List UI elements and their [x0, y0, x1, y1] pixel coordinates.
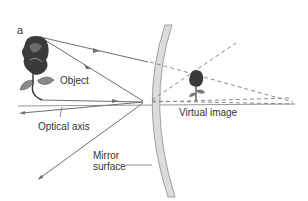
- optical-axis-label: Optical axis: [38, 121, 90, 132]
- virtual-extension-3: [152, 98, 290, 102]
- convex-mirror-diagram: [0, 0, 308, 201]
- incident-ray-3: [42, 100, 143, 102]
- mirror-surface-label-line2: surface: [93, 161, 126, 172]
- optical-axis-leader: [60, 107, 62, 117]
- panel-label: a: [17, 25, 23, 36]
- reflected-ray-2: [40, 103, 143, 178]
- virtual-image-rose: [189, 70, 205, 101]
- mirror-surface-label-line1: Mirror: [93, 150, 119, 161]
- virtual-extension-4: [152, 101, 293, 104]
- reflected-ray-3: [60, 45, 148, 62]
- virtual-extension-1: [150, 62, 293, 102]
- object-rose: [20, 36, 54, 100]
- incident-ray-2: [40, 37, 143, 101]
- virtual-image-label: Virtual image: [179, 107, 237, 118]
- object-label: Object: [60, 75, 89, 86]
- arrowhead-icon: [112, 99, 119, 103]
- mirror-surface: [152, 25, 175, 197]
- reflected-ray-1: [22, 102, 143, 113]
